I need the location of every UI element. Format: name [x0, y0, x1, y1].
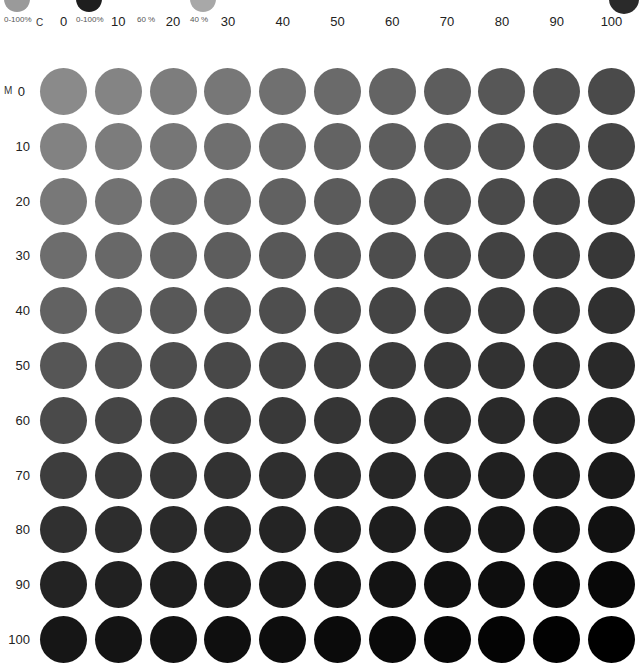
color-swatch: [424, 506, 471, 553]
color-swatch: [95, 287, 142, 334]
color-swatch: [369, 123, 416, 170]
color-swatch: [259, 287, 306, 334]
color-swatch: [588, 68, 635, 115]
column-label: 50: [318, 14, 358, 29]
color-swatch: [95, 397, 142, 444]
color-swatch: [424, 287, 471, 334]
color-swatch: [424, 232, 471, 279]
color-swatch: [314, 342, 361, 389]
color-swatch: [314, 123, 361, 170]
color-swatch: [40, 287, 87, 334]
legend-caption: 0-100%: [4, 15, 32, 24]
color-swatch: [204, 506, 251, 553]
color-swatch: [533, 68, 580, 115]
legend-swatch: [190, 0, 216, 12]
color-swatch: [259, 232, 306, 279]
color-swatch: [533, 616, 580, 663]
color-swatch: [478, 232, 525, 279]
color-swatch: [204, 287, 251, 334]
color-swatch: [40, 123, 87, 170]
column-label: 30: [208, 14, 248, 29]
color-swatch: [95, 561, 142, 608]
color-swatch: [204, 178, 251, 225]
row-label: 90: [0, 577, 30, 592]
color-swatch: [40, 397, 87, 444]
color-swatch: [533, 232, 580, 279]
color-swatch: [478, 342, 525, 389]
color-swatch: [150, 232, 197, 279]
color-swatch: [95, 232, 142, 279]
color-swatch: [95, 506, 142, 553]
color-swatch: [259, 452, 306, 499]
color-swatch: [314, 506, 361, 553]
color-swatch: [533, 397, 580, 444]
column-label: 40: [263, 14, 303, 29]
color-swatch: [259, 561, 306, 608]
color-swatch: [204, 68, 251, 115]
color-swatch: [150, 506, 197, 553]
color-swatch: [314, 287, 361, 334]
color-swatch: [424, 452, 471, 499]
row-label: 70: [0, 468, 30, 483]
color-swatch: [150, 397, 197, 444]
color-swatch: [204, 397, 251, 444]
column-label: 60: [372, 14, 412, 29]
color-swatch: [314, 68, 361, 115]
color-swatch: [478, 616, 525, 663]
color-swatch: [40, 68, 87, 115]
color-swatch: [588, 561, 635, 608]
color-swatch: [369, 342, 416, 389]
color-swatch: [150, 616, 197, 663]
color-swatch: [478, 178, 525, 225]
color-swatch: [259, 616, 306, 663]
color-swatch: [369, 232, 416, 279]
color-swatch: [533, 452, 580, 499]
color-swatch: [588, 232, 635, 279]
color-swatch: [369, 287, 416, 334]
color-swatch: [259, 506, 306, 553]
color-swatch: [314, 232, 361, 279]
color-swatch: [588, 397, 635, 444]
row-label: 30: [0, 248, 30, 263]
column-axis-label: C: [36, 17, 43, 28]
row-label: 100: [0, 632, 30, 647]
color-swatch: [150, 68, 197, 115]
color-swatch: [95, 616, 142, 663]
row-label: 40: [0, 303, 30, 318]
color-swatch: [40, 616, 87, 663]
color-swatch: [424, 342, 471, 389]
color-swatch: [40, 561, 87, 608]
color-swatch: [478, 68, 525, 115]
column-label: 80: [482, 14, 522, 29]
color-swatch: [478, 397, 525, 444]
color-swatch: [259, 342, 306, 389]
column-label: 20: [153, 14, 193, 29]
column-label: 100: [592, 14, 632, 29]
color-swatch: [533, 506, 580, 553]
color-swatch: [478, 123, 525, 170]
color-swatch: [588, 616, 635, 663]
color-swatch: [204, 616, 251, 663]
color-swatch: [314, 178, 361, 225]
color-swatch: [369, 397, 416, 444]
row-label: 60: [0, 413, 30, 428]
color-swatch: [204, 561, 251, 608]
color-swatch: [259, 397, 306, 444]
color-swatch: [150, 342, 197, 389]
color-swatch: [533, 561, 580, 608]
color-swatch: [424, 397, 471, 444]
color-swatch: [424, 561, 471, 608]
row-label: 10: [0, 139, 30, 154]
color-swatch: [150, 561, 197, 608]
color-swatch: [95, 123, 142, 170]
legend-swatch: [76, 0, 102, 12]
color-swatch: [369, 452, 416, 499]
column-label: 10: [98, 14, 138, 29]
color-swatch: [95, 68, 142, 115]
color-swatch: [533, 123, 580, 170]
color-swatch: [259, 68, 306, 115]
color-swatch: [533, 178, 580, 225]
column-label: 70: [427, 14, 467, 29]
color-swatch: [150, 123, 197, 170]
color-swatch: [150, 178, 197, 225]
